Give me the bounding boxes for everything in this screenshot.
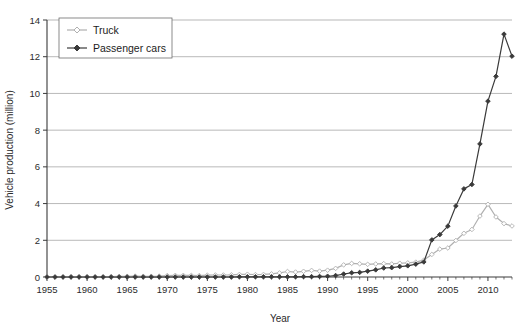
data-point <box>365 262 370 267</box>
data-point <box>277 275 282 280</box>
data-point <box>349 270 354 275</box>
data-point <box>405 264 410 269</box>
x-tick-label: 2005 <box>437 284 458 295</box>
data-point <box>101 275 106 280</box>
data-point <box>510 54 515 59</box>
data-point <box>349 261 354 266</box>
data-point <box>93 275 98 280</box>
x-tick-label: 1980 <box>237 284 258 295</box>
data-point <box>293 270 298 275</box>
x-tick-label: 2010 <box>477 284 498 295</box>
legend-label: Passenger cars <box>93 42 166 54</box>
y-axis-title: Vehicle production (million) <box>4 90 15 210</box>
vehicle-production-chart: 02468101214 1955196019651970197519801985… <box>0 0 531 331</box>
data-point <box>309 274 314 279</box>
data-point <box>309 268 314 273</box>
data-point <box>325 274 330 279</box>
y-axis-tick-labels: 02468101214 <box>29 15 40 283</box>
data-point <box>333 266 338 271</box>
y-tick-label: 10 <box>29 88 40 99</box>
data-point <box>381 266 386 271</box>
data-point <box>373 262 378 267</box>
y-tick-label: 0 <box>35 272 40 283</box>
y-tick-label: 12 <box>29 51 40 62</box>
data-point <box>502 32 507 37</box>
chart-legend: TruckPassenger cars <box>59 18 172 58</box>
data-point <box>357 261 362 266</box>
y-tick-label: 2 <box>35 235 40 246</box>
x-tick-label: 1970 <box>157 284 178 295</box>
series-line <box>47 204 512 277</box>
data-point <box>341 263 346 268</box>
data-point <box>269 275 274 280</box>
series-truck <box>45 202 515 279</box>
data-point <box>510 224 515 229</box>
data-point <box>357 270 362 275</box>
x-tick-label: 1975 <box>197 284 218 295</box>
series-passenger-cars <box>45 32 515 279</box>
data-point <box>285 269 290 274</box>
data-point <box>470 182 475 187</box>
data-point <box>325 268 330 273</box>
x-tick-label: 1965 <box>117 284 138 295</box>
data-point <box>373 268 378 273</box>
x-tick-label: 1955 <box>36 284 57 295</box>
legend-label: Truck <box>93 24 120 36</box>
x-tick-label: 1990 <box>317 284 338 295</box>
data-point <box>341 272 346 277</box>
data-point <box>494 74 499 79</box>
data-point <box>53 275 58 280</box>
x-tick-label: 2000 <box>397 284 418 295</box>
x-axis-tick-labels: 1955196019651970197519801985199019952000… <box>36 284 498 295</box>
data-point <box>486 99 491 104</box>
y-tick-label: 4 <box>35 198 40 209</box>
chart-canvas: 02468101214 1955196019651970197519801985… <box>0 0 531 331</box>
data-point <box>478 142 483 147</box>
x-tick-label: 1960 <box>77 284 98 295</box>
data-point <box>301 274 306 279</box>
data-point <box>301 269 306 274</box>
data-point <box>293 275 298 280</box>
x-tick-label: 1995 <box>357 284 378 295</box>
data-point <box>389 265 394 270</box>
x-axis-title: Year <box>270 313 291 324</box>
data-point <box>397 264 402 269</box>
data-point <box>462 187 467 192</box>
y-tick-label: 14 <box>29 15 40 26</box>
y-tick-label: 6 <box>35 161 40 172</box>
data-point <box>285 275 290 280</box>
data-point <box>365 269 370 274</box>
data-series-layer <box>45 32 515 279</box>
data-point <box>317 274 322 279</box>
y-axis-ticks <box>43 20 47 277</box>
data-point <box>317 269 322 274</box>
y-tick-label: 8 <box>35 125 40 136</box>
data-point <box>61 275 66 280</box>
x-tick-label: 1985 <box>277 284 298 295</box>
data-point <box>454 204 459 209</box>
data-point <box>45 275 50 280</box>
